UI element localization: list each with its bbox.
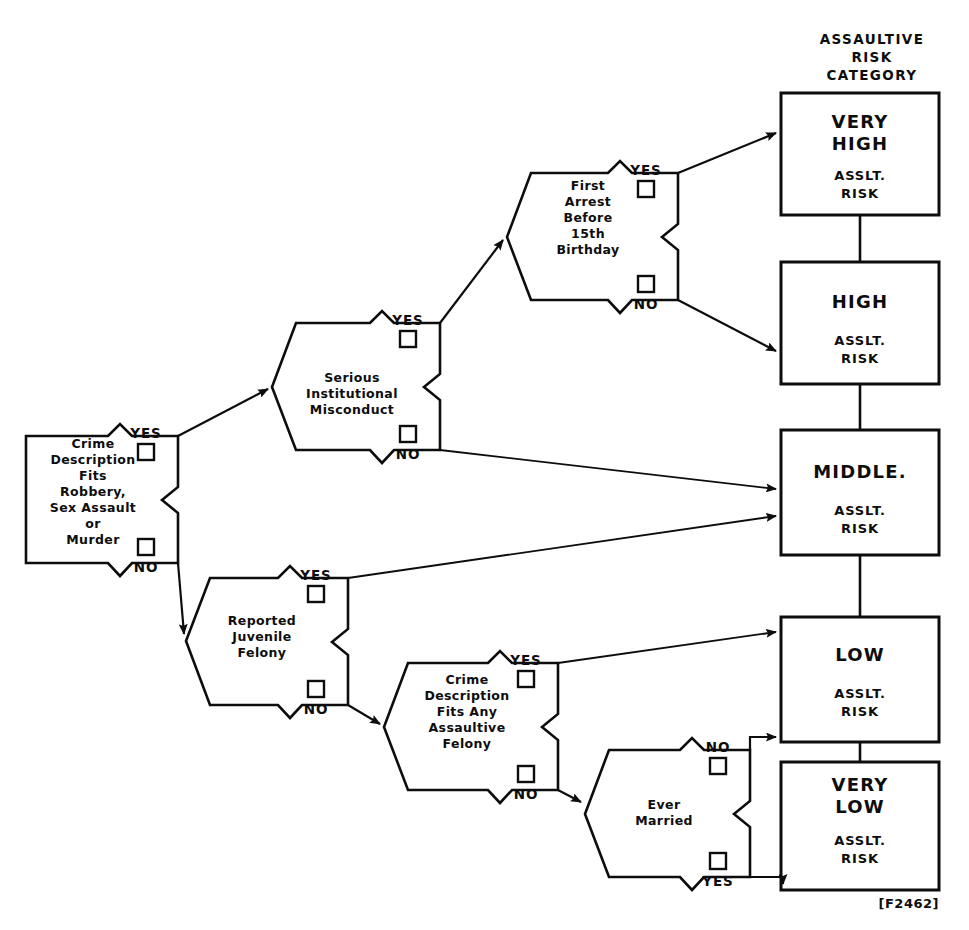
node-crime-robbery-line-6: or [85,516,101,531]
node-juvenile-felony-no-label: NO [304,701,329,717]
connector-ever-married-no-to-low [750,737,776,750]
connector-juvenile-felony-no-to-assaultive-felony [348,705,380,724]
node-assaultive-felony-yes-label: YES [509,652,541,668]
node-first-arrest-line-4: 15th [571,226,605,241]
node-assaultive-felony-line-2: Description [424,688,509,703]
outcome-high-sub-1: ASSLT. [834,333,886,348]
node-ever-married-line-2: Married [635,813,693,828]
node-assaultive-felony-yes-checkbox[interactable] [518,671,534,687]
connector-first-arrest-yes-to-very-high [678,133,776,173]
outcome-very-high-sub-2: RISK [841,186,879,201]
node-ever-married-line-1: Ever [648,797,681,812]
outcome-middle-sub-1: ASSLT. [834,503,886,518]
outcome-low-title-1: LOW [835,644,885,665]
node-juvenile-felony-line-2: Juvenile [231,629,291,644]
connector-crime-robbery-yes-to-serious-misconduct [178,389,268,436]
connector-first-arrest-no-to-high [678,300,776,351]
outcome-low-sub-1: ASSLT. [834,686,886,701]
node-serious-misconduct-line-2: Institutional [306,386,398,401]
connector-assaultive-felony-no-to-ever-married [558,790,581,802]
node-crime-robbery-no-label: NO [134,559,159,575]
decision-tree-diagram: ASSAULTIVE RISK CATEGORY VERY HIGH ASSLT… [0,0,969,930]
node-juvenile-felony-yes-label: YES [299,567,331,583]
outcome-low[interactable]: LOW ASSLT. RISK [781,617,939,742]
column-header-line-2: RISK [851,49,892,65]
node-crime-robbery-line-5: Sex Assault [50,500,136,515]
connector-crime-robbery-no-to-juvenile-felony [178,563,184,634]
outcome-very-high-title-1: VERY [832,111,889,132]
outcome-very-low[interactable]: VERY LOW ASSLT. RISK [781,762,939,890]
node-first-arrest-line-2: Arrest [565,194,611,209]
outcome-very-high[interactable]: VERY HIGH ASSLT. RISK [781,93,939,215]
outcome-high-sub-2: RISK [841,351,879,366]
outcome-very-low-sub-2: RISK [841,851,879,866]
column-header-line-1: ASSAULTIVE [820,31,925,47]
outcome-low-box [781,617,939,742]
node-assaultive-felony-line-5: Felony [443,736,492,751]
connector-assaultive-felony-yes-to-low [558,632,776,663]
outcome-middle-sub-2: RISK [841,521,879,536]
node-first-arrest-yes-label: YES [629,162,661,178]
node-crime-robbery-yes-checkbox[interactable] [138,444,154,460]
connector-serious-misconduct-yes-to-first-arrest [440,240,503,323]
node-crime-robbery-yes-label: YES [129,425,161,441]
node-serious-misconduct-line-3: Misconduct [310,402,394,417]
node-crime-robbery[interactable]: Crime Description Fits Robbery, Sex Assa… [26,424,178,576]
outcome-middle[interactable]: MIDDLE. ASSLT. RISK [781,430,939,555]
node-serious-misconduct[interactable]: Serious Institutional Misconduct YES NO [272,311,440,463]
node-juvenile-felony-line-3: Felony [238,645,287,660]
connector-ever-married-yes-to-very-low [750,877,783,884]
node-ever-married-no-checkbox[interactable] [710,758,726,774]
node-serious-misconduct-yes-checkbox[interactable] [400,331,416,347]
outcome-low-sub-2: RISK [841,704,879,719]
node-ever-married[interactable]: Ever Married NO YES [585,738,750,890]
column-header-line-3: CATEGORY [827,67,918,83]
node-serious-misconduct-line-1: Serious [324,370,380,385]
outcome-very-high-title-2: HIGH [832,133,888,154]
node-crime-robbery-line-2: Description [50,452,135,467]
node-juvenile-felony-yes-checkbox[interactable] [308,586,324,602]
node-assaultive-felony-no-label: NO [514,786,539,802]
outcome-high-title-1: HIGH [832,291,888,312]
node-first-arrest-yes-checkbox[interactable] [638,181,654,197]
node-ever-married-yes-checkbox[interactable] [710,853,726,869]
outcome-middle-title-1: MIDDLE. [813,461,907,482]
outcome-very-low-title-1: VERY [832,774,889,795]
node-crime-robbery-line-1: Crime [71,436,114,451]
node-serious-misconduct-no-checkbox[interactable] [400,426,416,442]
outcome-very-low-sub-1: ASSLT. [834,833,886,848]
outcome-high[interactable]: HIGH ASSLT. RISK [781,262,939,384]
node-serious-misconduct-no-label: NO [396,446,421,462]
node-ever-married-yes-label: YES [701,873,733,889]
node-assaultive-felony-line-1: Crime [445,672,488,687]
outcome-very-high-sub-1: ASSLT. [834,168,886,183]
node-crime-robbery-line-4: Robbery, [60,484,126,499]
node-assaultive-felony-line-4: Assaultive [428,720,505,735]
node-assaultive-felony[interactable]: Crime Description Fits Any Assaultive Fe… [384,651,558,803]
node-first-arrest-line-5: Birthday [556,242,619,257]
connector-serious-misconduct-no-to-middle [440,450,776,489]
node-crime-robbery-line-7: Murder [66,532,120,547]
node-first-arrest-no-label: NO [634,296,659,312]
node-first-arrest-line-3: Before [563,210,612,225]
outcome-very-low-title-2: LOW [835,796,885,817]
node-serious-misconduct-yes-label: YES [391,312,423,328]
flowchart-canvas: ASSAULTIVE RISK CATEGORY VERY HIGH ASSLT… [0,0,969,930]
outcome-column: VERY HIGH ASSLT. RISK HIGH ASSLT. RISK M… [781,93,939,890]
node-first-arrest-no-checkbox[interactable] [638,276,654,292]
column-header: ASSAULTIVE RISK CATEGORY [820,31,925,83]
node-juvenile-felony-line-1: Reported [228,613,296,628]
outcome-middle-box [781,430,939,555]
node-crime-robbery-no-checkbox[interactable] [138,539,154,555]
node-first-arrest[interactable]: First Arrest Before 15th Birthday YES NO [507,161,678,313]
node-ever-married-no-label: NO [706,739,731,755]
node-assaultive-felony-no-checkbox[interactable] [518,766,534,782]
node-juvenile-felony-no-checkbox[interactable] [308,681,324,697]
node-juvenile-felony[interactable]: Reported Juvenile Felony YES NO [186,566,348,718]
node-crime-robbery-line-3: Fits [79,468,107,483]
node-first-arrest-line-1: First [571,178,605,193]
figure-caption: [F2462] [879,896,939,911]
node-assaultive-felony-line-3: Fits Any [437,704,498,719]
connector-juvenile-felony-yes-to-middle [348,516,776,578]
